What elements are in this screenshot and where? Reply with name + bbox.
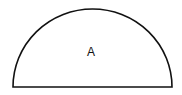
semicircle-diagram: A: [0, 0, 182, 95]
region-label: A: [87, 45, 95, 59]
